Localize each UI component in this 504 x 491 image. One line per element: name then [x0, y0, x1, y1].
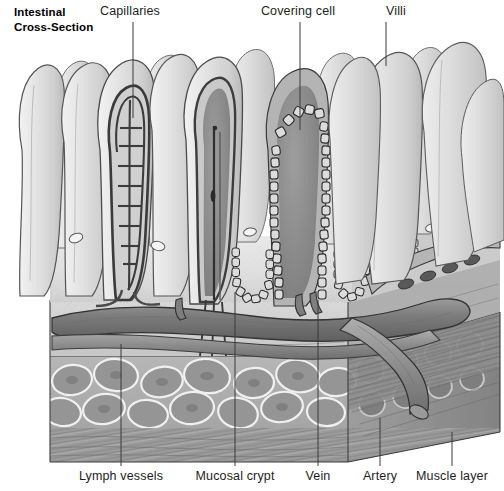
label-lymph-vessels: Lymph vessels [79, 469, 163, 483]
label-mucosal-crypt: Mucosal crypt [195, 469, 274, 483]
title-line-2: Cross-Section [14, 21, 93, 33]
label-villi: Villi [386, 4, 406, 18]
label-artery: Artery [363, 469, 398, 483]
title-line-1: Intestinal [14, 6, 65, 18]
illustration-canvas: Capillaries Covering cell Villi Lymph ve… [0, 0, 504, 491]
villus-covering-cell [266, 69, 330, 306]
villi-mid-right [329, 57, 381, 284]
label-covering-cell: Covering cell [261, 4, 335, 18]
label-vein: Vein [306, 469, 331, 483]
label-muscle-layer: Muscle layer [416, 469, 488, 483]
label-capillaries: Capillaries [100, 4, 160, 18]
intestinal-cross-section-figure: Capillaries Covering cell Villi Lymph ve… [0, 0, 504, 491]
